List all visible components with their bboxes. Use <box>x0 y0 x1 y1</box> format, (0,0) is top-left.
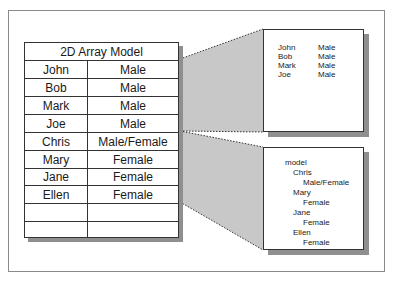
name-cell: Ellen <box>25 186 88 203</box>
tree-node-value: Female <box>303 238 330 247</box>
name-cell: Jane <box>25 169 88 185</box>
gender-cell: Male <box>88 61 178 78</box>
table-row <box>25 203 178 221</box>
tree-node-name: Mary <box>293 188 311 197</box>
flat-gender: Male <box>318 70 335 79</box>
table-row: Mary Female <box>25 150 178 168</box>
gender-cell: Male/Female <box>88 133 178 150</box>
tree-node-name: Ellen <box>293 228 311 237</box>
flat-name: Joe <box>278 70 291 79</box>
array-table: 2D Array Model John Male Bob Male Mark M… <box>24 42 179 238</box>
table-row: Joe Male <box>25 114 178 132</box>
tree-view-box: model Chris Male/Female Mary Female Jane… <box>263 147 364 250</box>
gender-cell <box>88 204 178 221</box>
flat-gender: Male <box>318 43 335 52</box>
gender-cell: Female <box>88 186 178 203</box>
name-cell: Mark <box>25 97 88 114</box>
flat-gender: Male <box>318 52 335 61</box>
gender-cell: Male <box>88 79 178 96</box>
tree-node-value: Male/Female <box>303 178 349 187</box>
table-row: Bob Male <box>25 78 178 96</box>
tree-node-value: Female <box>303 218 330 227</box>
gender-cell: Male <box>88 97 178 114</box>
table-row <box>25 221 178 237</box>
table-row: Ellen Female <box>25 185 178 203</box>
flat-gender: Male <box>318 61 335 70</box>
tree-root: model <box>285 158 307 167</box>
name-cell: Chris <box>25 133 88 150</box>
table-row: Chris Male/Female <box>25 132 178 150</box>
tree-node-value: Female <box>303 198 330 207</box>
name-cell: Mary <box>25 151 88 168</box>
name-cell: Bob <box>25 79 88 96</box>
flat-name: Bob <box>278 52 292 61</box>
flat-name: John <box>278 43 295 52</box>
tree-node-name: Chris <box>293 168 312 177</box>
table-row: Mark Male <box>25 96 178 114</box>
name-cell: Joe <box>25 115 88 132</box>
name-cell: John <box>25 61 88 78</box>
gender-cell: Male <box>88 115 178 132</box>
flat-name: Mark <box>278 61 296 70</box>
name-cell <box>25 204 88 221</box>
table-row: John Male <box>25 60 178 78</box>
tree-node-name: Jane <box>293 208 310 217</box>
table-header-row: 2D Array Model <box>25 43 178 60</box>
table-row: Jane Female <box>25 168 178 185</box>
gender-cell: Female <box>88 151 178 168</box>
flat-view-box: John Male Bob Male Mark Male Joe Male <box>263 29 364 132</box>
name-cell <box>25 222 88 237</box>
gender-cell <box>88 222 178 237</box>
table-title: 2D Array Model <box>25 43 178 60</box>
gender-cell: Female <box>88 169 178 185</box>
